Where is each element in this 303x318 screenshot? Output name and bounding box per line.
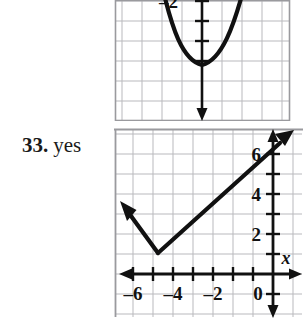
absolute-value-graph: 6 4 2 –6 –4 –2 0 x: [114, 128, 303, 318]
absolute-value-svg: 6 4 2 –6 –4 –2 0 x: [114, 128, 303, 318]
answer-key-page: –2: [0, 0, 303, 318]
y-tick-label-2: 2: [252, 224, 262, 245]
answer-item-33: 33.yes: [22, 133, 81, 157]
parabola-graph: –2: [114, 0, 291, 121]
parabola-y-tick-label: –2: [158, 0, 178, 12]
answer-number: 33.: [22, 133, 48, 157]
x-tick-label-0: 0: [253, 283, 263, 304]
answer-text: yes: [53, 133, 81, 157]
x-tick-label-neg2: –2: [203, 283, 223, 304]
x-tick-label-neg4: –4: [163, 283, 184, 304]
y-tick-label-4: 4: [252, 184, 262, 205]
x-axis-name-label: x: [281, 248, 291, 268]
parabola-svg: –2: [114, 0, 291, 121]
y-tick-label-6: 6: [252, 144, 262, 165]
x-tick-label-neg6: –6: [123, 283, 143, 304]
